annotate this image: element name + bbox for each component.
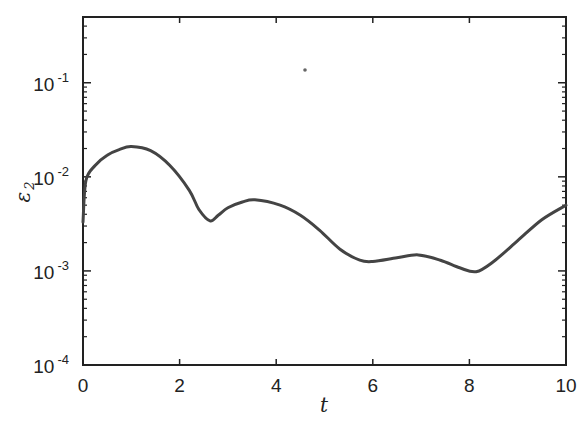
x-tick-label: 0 xyxy=(78,375,89,396)
y-axis-label-main: ε xyxy=(11,192,35,203)
x-tick-label: 8 xyxy=(464,375,475,396)
series-line-epsilon2 xyxy=(83,146,566,271)
y-tick-label: 10-3 xyxy=(33,258,69,283)
y-tick-label: 10-1 xyxy=(33,70,69,95)
y-tick-labels: 10-410-310-210-1 xyxy=(33,70,69,377)
minor-ticks xyxy=(83,17,566,337)
line-chart: 0246810 10-410-310-210-1 t ε2 xyxy=(0,0,580,423)
y-axis-label-subscript: 2 xyxy=(22,181,37,190)
x-tick-label: 4 xyxy=(271,375,282,396)
y-tick-label: 10-4 xyxy=(33,352,69,377)
stray-dot xyxy=(303,68,307,72)
y-axis-label: ε2 xyxy=(11,181,37,202)
x-tick-label: 10 xyxy=(555,375,576,396)
plot-area xyxy=(83,17,566,365)
x-tick-label: 6 xyxy=(368,375,379,396)
x-axis-label: t xyxy=(320,393,329,417)
major-ticks xyxy=(83,17,566,365)
plot-frame xyxy=(83,17,566,365)
svg-text:ε2: ε2 xyxy=(11,181,37,202)
y-tick-label: 10-2 xyxy=(33,164,69,189)
x-tick-label: 2 xyxy=(174,375,185,396)
